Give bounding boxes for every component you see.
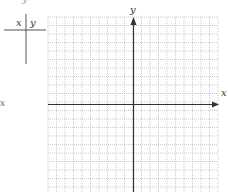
coordinate-grid: [0, 0, 228, 192]
y-axis-label: y: [130, 5, 136, 15]
x-axis-label: x: [221, 88, 227, 98]
t-table-lines: [4, 14, 46, 64]
y-axis-arrow-icon: [131, 17, 137, 25]
x-axis-arrow-icon: [212, 102, 219, 108]
